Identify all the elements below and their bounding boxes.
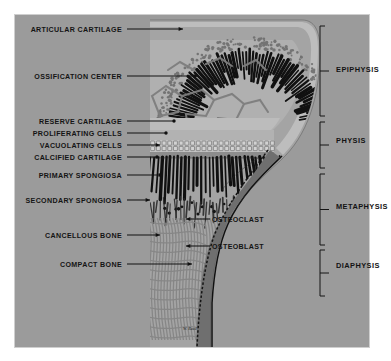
- paper-grain: [14, 14, 370, 348]
- callout-label: PRIMARY SPONGIOSA: [39, 172, 122, 180]
- callout-label: OSTEOCLAST: [212, 216, 264, 224]
- plate: [14, 14, 370, 350]
- figure-canvas: ARTICULAR CARTILAGEOSSIFICATION CENTERRE…: [0, 0, 391, 361]
- region-label: EPIPHYSIS: [336, 65, 379, 74]
- region-label: DIAPHYSIS: [336, 261, 380, 270]
- callout-label: VACUOLATING CELLS: [40, 142, 122, 150]
- callout-label: SECONDARY SPONGIOSA: [25, 197, 122, 205]
- callout-label: PROLIFERATING CELLS: [33, 130, 122, 138]
- callout-label: RESERVE CARTILAGE: [39, 118, 122, 126]
- callout-label: OSTEOBLAST: [212, 243, 264, 251]
- callout-label: OSSIFICATION CENTER: [34, 73, 122, 81]
- region-label: PHYSIS: [336, 136, 366, 145]
- callout-label: COMPACT BONE: [60, 261, 122, 269]
- callout-label: ARTICULAR CARTILAGE: [31, 26, 122, 34]
- callout-label: CALCIFIED CARTILAGE: [34, 154, 122, 162]
- region-label: METAPHYSIS: [336, 202, 388, 211]
- bone-histology-figure: ARTICULAR CARTILAGEOSSIFICATION CENTERRE…: [0, 0, 391, 361]
- callout-label: CANCELLOUS BONE: [45, 232, 122, 240]
- artist-signature: W. Reed: [183, 326, 197, 331]
